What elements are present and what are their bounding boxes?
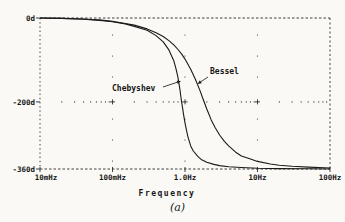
y-tick-label: 0d [26,14,35,23]
grid-dot-decade [184,160,185,161]
grid-dot-decade [257,118,258,119]
x-tick-label: 10Hz [248,173,266,182]
annotation-arrow-bessel [201,77,208,82]
grid-dot-minor [134,101,135,102]
grid-dot-minor [250,101,251,102]
phase-plot: 0d-200d-360d10mHz100mHz1.0Hz10Hz100HzChe… [0,0,345,200]
grid-dot-decade [257,76,258,77]
grid-dot-minor [96,101,97,102]
x-axis-label: Frequency [139,189,196,198]
grid-dot-minor [308,101,309,102]
grid-dot-minor [163,101,164,102]
grid-dot-decade [257,139,258,140]
grid-dot-minor [168,101,169,102]
grid-dot-minor [74,101,75,102]
series-curve-chebyshev [40,18,330,169]
grid-dot-minor [254,101,255,102]
grid-dot-minor [219,101,220,102]
grid-dot-minor [61,101,62,102]
grid-dot-decade [184,34,185,35]
grid-dot-minor [83,101,84,102]
y-tick-label: -200d [12,98,35,107]
y-tick-label: -360d [12,165,35,174]
grid-dot-minor [156,101,157,102]
grid-dot-decade [112,118,113,119]
filter-phase-figure: 0d-200d-360d10mHz100mHz1.0Hz10Hz100HzChe… [0,0,345,222]
grid-dot-minor [101,101,102,102]
annotation-label-bessel: Bessel [210,67,239,76]
grid-dot-decade [112,34,113,35]
grid-dot-decade [112,55,113,56]
grid-dot-minor [318,101,319,102]
grid-dot-decade [112,76,113,77]
grid-dot-minor [313,101,314,102]
figure-caption: (a) [0,201,345,214]
grid-dot-decade [257,34,258,35]
grid-dot-decade [112,160,113,161]
grid-dot-minor [228,101,229,102]
x-tick-label: 1.0Hz [174,173,197,182]
grid-dot-minor [291,101,292,102]
grid-dot-minor [301,101,302,102]
grid-dot-minor [326,101,327,102]
grid-dot-minor [279,101,280,102]
grid-dot-minor [322,101,323,102]
grid-dot-minor [109,101,110,102]
grid-dot-minor [235,101,236,102]
grid-dot-decade [184,55,185,56]
grid-dot-minor [241,101,242,102]
grid-dot-decade [112,139,113,140]
grid-dot-minor [173,101,174,102]
annotation-arrow-chebyshev [163,82,177,87]
grid-dot-minor [105,101,106,102]
annotation-arrowhead-bessel [198,80,202,84]
grid-dot-decade [184,139,185,140]
x-tick-label: 100mHz [99,173,126,182]
grid-dot-decade [257,55,258,56]
grid-dot-minor [90,101,91,102]
x-tick-label: 100Hz [319,173,342,182]
series-curve-bessel [40,18,330,168]
x-tick-label: 10mHz [35,173,58,182]
grid-dot-minor [146,101,147,102]
grid-dot-decade [184,76,185,77]
grid-dot-minor [177,101,178,102]
annotation-label-chebyshev: Chebyshev [112,84,156,93]
grid-dot-minor [206,101,207,102]
grid-dot-minor [246,101,247,102]
